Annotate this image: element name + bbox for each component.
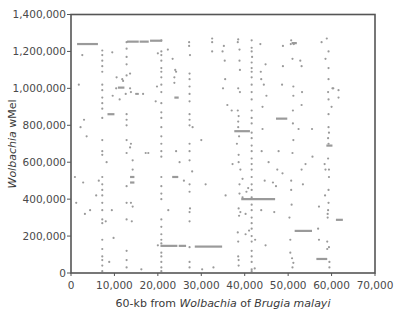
match-point — [237, 41, 239, 43]
match-point — [160, 111, 162, 113]
match-point — [254, 267, 256, 269]
match-point — [101, 265, 103, 267]
match-point — [327, 217, 329, 219]
match-point — [172, 58, 174, 60]
match-point — [273, 211, 275, 213]
match-point — [225, 194, 227, 196]
match-point — [244, 213, 246, 215]
match-point — [327, 67, 329, 69]
match-point — [125, 48, 127, 50]
match-point — [212, 266, 214, 268]
match-point — [211, 41, 213, 43]
match-point — [238, 48, 240, 50]
match-point — [160, 185, 162, 187]
match-point — [81, 54, 83, 56]
match-point — [188, 159, 190, 161]
match-point — [337, 96, 339, 98]
match-point — [188, 72, 190, 74]
match-point — [130, 202, 132, 204]
match-point — [101, 108, 103, 110]
match-point — [101, 270, 103, 272]
match-point — [101, 89, 103, 91]
match-point — [188, 85, 190, 87]
match-point — [251, 91, 253, 93]
match-point — [167, 209, 169, 211]
match-point — [289, 252, 291, 254]
match-point — [101, 222, 103, 224]
match-point — [125, 266, 127, 268]
match-point — [238, 161, 240, 163]
match-point — [291, 58, 293, 60]
match-point — [129, 72, 131, 74]
match-point — [292, 85, 294, 87]
match-point — [101, 202, 103, 204]
match-point — [160, 117, 162, 119]
match-point — [160, 176, 162, 178]
match-point — [251, 144, 253, 146]
match-point — [251, 84, 253, 86]
match-point — [132, 205, 134, 207]
match-point — [173, 76, 175, 78]
match-point — [231, 109, 233, 111]
match-point — [251, 176, 253, 178]
match-point — [330, 106, 332, 108]
match-point — [84, 213, 86, 215]
x-tick-label: 0 — [68, 279, 75, 291]
y-tick-label: 1,400,000 — [13, 8, 66, 20]
x-tick-label: 60,000 — [313, 279, 350, 291]
match-point — [328, 261, 330, 263]
match-point — [188, 183, 190, 185]
match-point — [95, 194, 97, 196]
match-point — [101, 189, 103, 191]
match-point — [129, 146, 131, 148]
match-point — [251, 117, 253, 119]
match-point — [245, 191, 247, 193]
match-point — [101, 255, 103, 257]
match-point — [101, 60, 103, 62]
match-point — [237, 87, 239, 89]
match-point — [239, 169, 241, 171]
match-point — [292, 139, 294, 141]
match-point — [239, 91, 241, 93]
match-point — [200, 139, 202, 141]
match-point — [160, 226, 162, 228]
match-point — [160, 50, 162, 52]
match-point — [301, 104, 303, 106]
match-point — [327, 209, 329, 211]
match-point — [79, 126, 81, 128]
match-point — [160, 126, 162, 128]
match-point — [318, 205, 320, 207]
match-point — [89, 209, 91, 211]
match-point — [251, 132, 253, 134]
match-point — [276, 169, 278, 171]
match-point — [251, 39, 253, 41]
match-point — [221, 50, 223, 52]
plot-area — [74, 37, 343, 272]
match-point — [327, 113, 329, 115]
match-point — [112, 237, 114, 239]
match-point — [238, 154, 240, 156]
match-point — [268, 161, 270, 163]
match-point — [238, 265, 240, 267]
y-axis: 0200,000400,000600,000800,0001,000,0001,… — [13, 8, 71, 279]
match-point — [328, 266, 330, 268]
match-point — [78, 84, 80, 86]
match-point — [125, 259, 127, 261]
match-point — [251, 235, 253, 237]
match-point — [224, 60, 226, 62]
match-point — [289, 239, 291, 241]
match-point — [281, 172, 283, 174]
y-axis-title: Wolbachia wMel — [6, 99, 19, 188]
match-point — [292, 109, 294, 111]
match-point — [292, 95, 294, 97]
match-point — [236, 143, 238, 145]
match-point — [101, 209, 103, 211]
match-point — [101, 54, 103, 56]
match-point — [82, 181, 84, 183]
match-point — [291, 152, 293, 154]
match-point — [101, 218, 103, 220]
match-point — [301, 91, 303, 93]
match-point — [160, 198, 162, 200]
match-point — [157, 244, 159, 246]
match-point — [238, 115, 240, 117]
